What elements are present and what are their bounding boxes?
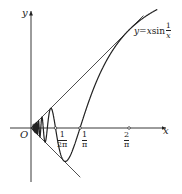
function-label: y=x sin 1 x: [134, 22, 171, 39]
tick-dot: [54, 127, 57, 130]
x-axis-label: x: [163, 126, 169, 136]
function-fraction-den: x: [166, 32, 170, 40]
tick-dot: [79, 127, 82, 130]
envelope-line-y-equals-minus-x: [31, 128, 80, 177]
tick-label-2-over-pi: 2 π: [124, 131, 129, 149]
tick-label-1-over-2pi: 1 2π: [57, 131, 67, 149]
function-name: sin: [152, 26, 165, 36]
function-fraction-num: 1: [166, 22, 171, 30]
function-fraction: 1 x: [166, 22, 171, 39]
tick-dot: [128, 127, 131, 130]
origin-label: O: [20, 130, 28, 140]
tick-label-1-over-pi: 1 π: [82, 131, 87, 149]
function-lhs: y=x: [134, 26, 152, 36]
y-axis-label: y: [22, 8, 28, 18]
